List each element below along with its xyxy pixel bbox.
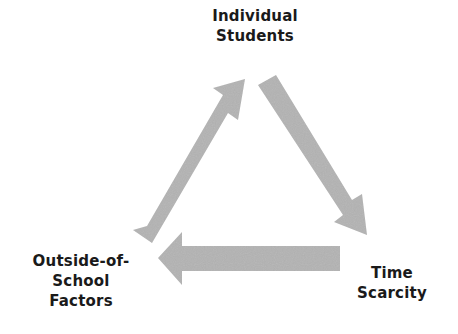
node-time-scarcity: Time Scarcity [342,263,442,303]
node-label-line: Scarcity [342,283,442,303]
node-label-line: School [22,271,140,291]
arrow-right-to-left [158,232,340,285]
node-label-line: Individual [185,6,325,26]
node-label-line: Factors [22,291,140,311]
arrow-top-to-right [258,75,367,235]
node-label-line: Outside-of- [22,251,140,271]
node-label-line: Time [342,263,442,283]
node-outside-of-school-factors: Outside-of- School Factors [22,251,140,311]
node-individual-students: Individual Students [185,6,325,46]
node-label-line: Students [185,26,325,46]
arrow-left-to-top [133,79,245,243]
